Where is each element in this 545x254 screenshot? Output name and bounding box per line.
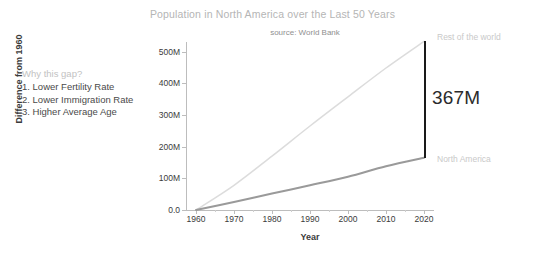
- y-tick-mark: [182, 210, 186, 211]
- x-tick-mark: [348, 210, 349, 214]
- x-tick-label: 1990: [301, 214, 320, 224]
- annotation-item-1: 1. Lower Fertility Rate: [22, 81, 154, 94]
- chart-canvas: Population in North America over the Las…: [0, 0, 545, 254]
- annotation-heading: Why this gap?: [22, 68, 154, 79]
- x-tick-mark: [424, 210, 425, 214]
- x-axis-title: Year: [186, 232, 434, 242]
- x-tick-label: 2010: [377, 214, 396, 224]
- x-tick-mark: [386, 210, 387, 214]
- x-tick-mark: [234, 210, 235, 214]
- series-lines: [186, 42, 426, 210]
- chart-source-note: source: World Bank: [185, 28, 425, 37]
- y-tick-label: 0.0: [168, 205, 180, 215]
- gap-value-label: 367M: [432, 87, 480, 109]
- annotation-item-3: 3. Higher Average Age: [22, 106, 154, 119]
- y-tick-label: 400M: [159, 78, 180, 88]
- series-label-north-america: North America: [437, 154, 491, 164]
- x-tick-minor: [367, 210, 368, 212]
- x-tick-label: 1970: [225, 214, 244, 224]
- y-tick-label: 100M: [159, 173, 180, 183]
- y-tick-label: 300M: [159, 110, 180, 120]
- x-tick-label: 1980: [263, 214, 282, 224]
- y-axis-title: Difference from 1960: [14, 19, 24, 139]
- x-tick-minor: [329, 210, 330, 212]
- series-line-north-america: [196, 158, 424, 210]
- x-tick-mark: [272, 210, 273, 214]
- x-tick-minor: [253, 210, 254, 212]
- y-tick-label: 200M: [159, 142, 180, 152]
- x-tick-minor: [215, 210, 216, 212]
- x-tick-label: 2000: [339, 214, 358, 224]
- x-tick-minor: [291, 210, 292, 212]
- series-label-rest-of-the-world: Rest of the world: [437, 32, 501, 42]
- y-tick-label: 500M: [159, 47, 180, 57]
- page-title: Population in North America over the Las…: [0, 8, 545, 20]
- x-tick-minor: [405, 210, 406, 212]
- x-tick-label: 2020: [415, 214, 434, 224]
- gap-bracket-bar: [424, 41, 426, 157]
- plot-area: [186, 42, 426, 210]
- x-tick-label: 1960: [187, 214, 206, 224]
- why-this-gap-annotation: Why this gap? 1. Lower Fertility Rate 2.…: [22, 68, 154, 119]
- annotation-item-2: 2. Lower Immigration Rate: [22, 94, 154, 107]
- x-tick-mark: [310, 210, 311, 214]
